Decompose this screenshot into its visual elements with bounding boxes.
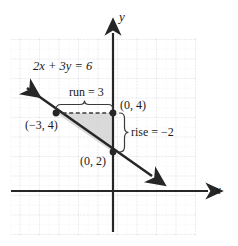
- run-label: run = 3: [69, 86, 104, 98]
- rise-label: rise = −2: [131, 126, 174, 138]
- x-axis-label: x: [215, 183, 221, 196]
- equation-text: 2x + 3y = 6: [33, 59, 92, 73]
- dot-neg3-4: [53, 110, 60, 117]
- graph-figure: 2x + 3y = 6 run = 3 rise = −2 (−3, 4) (0…: [0, 0, 238, 246]
- dot-0-4: [110, 110, 117, 117]
- equation-label: 2x + 3y = 6: [33, 60, 92, 73]
- point-label-neg3-4: (−3, 4): [25, 119, 58, 131]
- dot-0-2: [110, 149, 117, 156]
- point-label-0-4: (0, 4): [120, 99, 146, 111]
- point-label-0-2: (0, 2): [80, 155, 106, 167]
- y-axis-label: y: [119, 10, 125, 23]
